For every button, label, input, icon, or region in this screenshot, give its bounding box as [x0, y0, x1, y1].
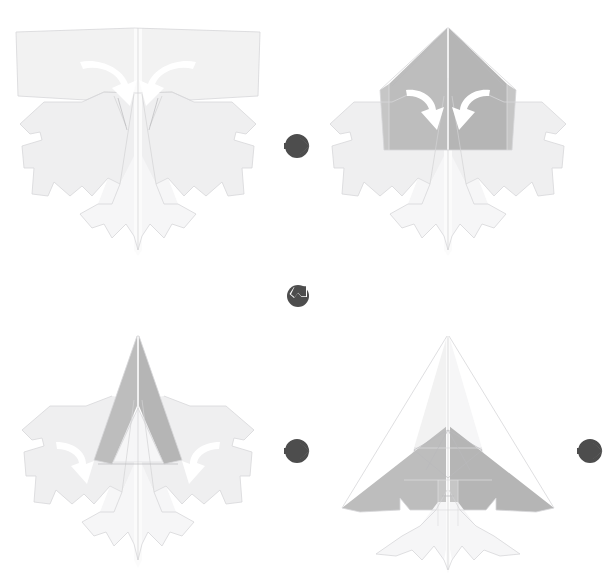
step-1-figure [8, 18, 268, 258]
step-2-figure [318, 18, 578, 258]
arrow-circle-down-left-icon [285, 283, 311, 309]
step-panel-1 [8, 18, 268, 258]
origami-instruction-diagram [0, 0, 615, 582]
connector-step1-to-step2 [283, 132, 311, 160]
step-4-figure [318, 330, 578, 575]
connector-step4-to-next [576, 437, 604, 465]
cropped-header-remnant [0, 0, 615, 14]
step-panel-4 [318, 330, 578, 575]
arrow-circle-right-icon [283, 132, 311, 160]
step-panel-2 [318, 18, 578, 258]
arrow-circle-right-icon [283, 437, 311, 465]
arrow-circle-right-icon [576, 437, 604, 465]
step-3-figure [8, 330, 268, 575]
connector-step2-to-step3 [285, 283, 311, 309]
connector-step3-to-step4 [283, 437, 311, 465]
step-panel-3 [8, 330, 268, 575]
